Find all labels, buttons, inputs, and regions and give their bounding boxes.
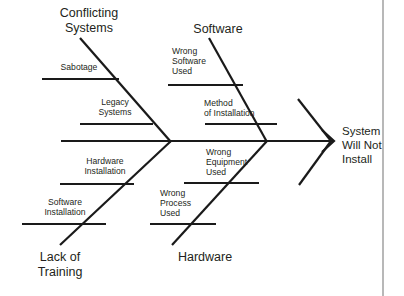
category-label-lack-of-training: Lack of Training — [38, 250, 83, 280]
cause-label-hardware-installation: Hardware Installation — [84, 156, 125, 176]
fishbone-diagram-canvas: Conflicting SystemsSoftwareLack of Train… — [0, 0, 404, 296]
cause-label-wrong-equipment-used: Wrong Equipment Used — [206, 147, 247, 177]
cause-label-sabotage: Sabotage — [61, 62, 98, 72]
cause-label-wrong-software-used: Wrong Software Used — [172, 46, 206, 76]
category-bone-software — [209, 38, 267, 142]
cause-label-legacy-systems: Legacy Systems — [99, 97, 132, 117]
category-label-conflicting-systems: Conflicting Systems — [60, 6, 118, 36]
cause-label-method-of-installation: Method of Installation — [204, 98, 255, 118]
category-label-hardware: Hardware — [178, 250, 232, 265]
spine-group — [61, 130, 334, 152]
category-label-software: Software — [193, 22, 242, 37]
category-bone-conflicting-systems — [80, 38, 171, 142]
effect-label: System Will Not Install — [342, 124, 382, 166]
cause-label-software-installation: Software Installation — [44, 197, 85, 217]
cause-label-wrong-process-used: Wrong Process Used — [160, 188, 191, 218]
